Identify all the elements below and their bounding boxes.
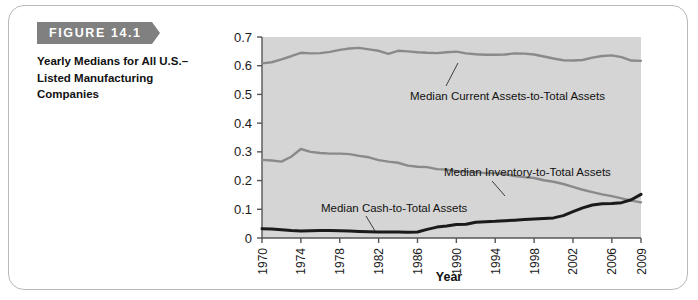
figure-card: FIGURE 14.1 Yearly Medians for All U.S.–… <box>8 5 688 290</box>
y-tick-label: 0.1 <box>234 202 252 217</box>
figure-number-banner: FIGURE 14.1 <box>37 22 152 44</box>
y-tick-label: 0 <box>245 231 252 246</box>
x-tick-label: 1982 <box>372 248 386 275</box>
series-annotation-label: Median Inventory-to-Total Assets <box>444 166 611 178</box>
series-annotation-label: Median Current Assets-to-Total Assets <box>410 90 605 102</box>
x-tick-label: 2009 <box>635 248 649 275</box>
series-annotation-label: Median Cash-to-Total Assets <box>321 202 468 214</box>
y-tick-label: 0.2 <box>234 173 252 188</box>
line-chart: 00.10.20.30.40.50.60.7 19701974197819821… <box>209 24 679 286</box>
x-tick-label: 1978 <box>333 248 347 275</box>
chart-container: 00.10.20.30.40.50.60.7 19701974197819821… <box>209 24 679 286</box>
figure-caption-text: Yearly Medians for All U.S.–Listed Manuf… <box>37 53 209 103</box>
y-tick-label: 0.3 <box>234 144 252 159</box>
x-axis-title: Year <box>436 270 463 284</box>
x-tick-label: 1986 <box>411 248 425 275</box>
x-tick-label: 1994 <box>489 248 503 275</box>
y-tick-label: 0.4 <box>234 116 252 131</box>
y-tick-label: 0.5 <box>234 87 252 102</box>
x-tick-label: 2006 <box>605 248 619 275</box>
y-tick-label: 0.6 <box>234 58 252 73</box>
x-tick-label: 2002 <box>566 248 580 275</box>
x-tick-label: 1974 <box>294 248 308 275</box>
x-tick-label: 1998 <box>528 248 542 275</box>
y-tick-label: 0.7 <box>234 30 252 45</box>
y-axis: 00.10.20.30.40.50.60.7 <box>234 30 262 246</box>
x-tick-label: 1970 <box>256 248 270 275</box>
figure-caption-block: FIGURE 14.1 Yearly Medians for All U.S.–… <box>37 22 209 103</box>
